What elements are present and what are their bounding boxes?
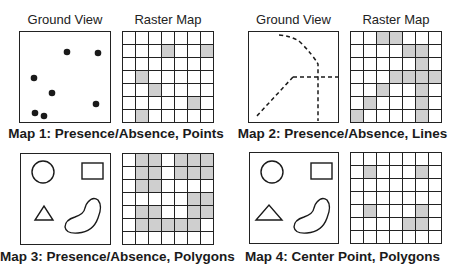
raster-cell-absent — [429, 205, 441, 217]
raster-cell-absent — [390, 218, 402, 230]
raster-cell-absent — [403, 179, 415, 191]
raster-cell-absent — [403, 166, 415, 178]
raster-cell-present — [364, 166, 376, 178]
raster-cell-absent — [351, 179, 363, 191]
raster-cell-absent — [377, 192, 389, 204]
raster-cell-absent — [351, 192, 363, 204]
raster-cell-absent — [429, 153, 441, 165]
map-4-caption: Map 4: Center Point, Polygons — [230, 249, 455, 264]
raster-cell-absent — [390, 231, 402, 243]
raster-cell-absent — [429, 218, 441, 230]
raster-cell-absent — [364, 218, 376, 230]
raster-cell-absent — [416, 179, 428, 191]
raster-cell-absent — [390, 205, 402, 217]
raster-cell-absent — [351, 205, 363, 217]
raster-cell-present — [403, 218, 415, 230]
raster-cell-absent — [403, 153, 415, 165]
raster-grid-map4 — [350, 152, 442, 244]
raster-cell-absent — [377, 205, 389, 217]
raster-cell-absent — [377, 179, 389, 191]
raster-cell-absent — [390, 153, 402, 165]
raster-cell-absent — [390, 166, 402, 178]
raster-cell-absent — [364, 231, 376, 243]
raster-cell-absent — [351, 153, 363, 165]
raster-cell-present — [364, 205, 376, 217]
raster-cell-absent — [416, 153, 428, 165]
raster-cell-present — [416, 205, 428, 217]
raster-cell-absent — [377, 231, 389, 243]
raster-cell-absent — [377, 218, 389, 230]
raster-cell-absent — [351, 231, 363, 243]
raster-cell-absent — [351, 166, 363, 178]
raster-cell-absent — [429, 231, 441, 243]
raster-cell-absent — [364, 179, 376, 191]
raster-cell-absent — [364, 192, 376, 204]
raster-cell-absent — [390, 179, 402, 191]
raster-cell-present — [416, 218, 428, 230]
raster-cell-present — [416, 166, 428, 178]
raster-cell-absent — [416, 231, 428, 243]
raster-cell-absent — [403, 205, 415, 217]
raster-cell-absent — [377, 153, 389, 165]
raster-cell-absent — [351, 218, 363, 230]
raster-cell-absent — [429, 166, 441, 178]
raster-cell-absent — [429, 179, 441, 191]
raster-cell-absent — [364, 153, 376, 165]
raster-cell-absent — [390, 192, 402, 204]
raster-cell-absent — [377, 166, 389, 178]
raster-cell-absent — [416, 192, 428, 204]
raster-cell-absent — [403, 231, 415, 243]
raster-cell-absent — [403, 192, 415, 204]
raster-cell-absent — [429, 192, 441, 204]
